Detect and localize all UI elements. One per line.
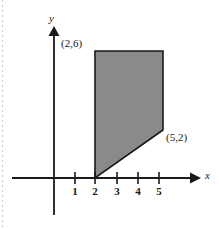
x-tick-label-4: 4 [132, 186, 144, 197]
vertex-label-2-6: (2,6) [61, 38, 82, 49]
y-axis-label: y [49, 13, 54, 24]
plot-canvas [0, 0, 219, 229]
x-tick-label-2: 2 [89, 186, 101, 197]
y-axis-arrow-icon [49, 26, 60, 36]
coordinate-plane-figure: 1 2 3 4 5 (2,6) (5,2) x y [0, 0, 219, 229]
x-tick-label-5: 5 [153, 186, 165, 197]
x-axis-arrow-icon [190, 173, 201, 184]
vertex-label-5-2: (5,2) [166, 132, 187, 143]
x-tick-label-3: 3 [111, 186, 123, 197]
x-axis-label: x [205, 170, 210, 181]
x-tick-label-1: 1 [69, 186, 81, 197]
shaded-region [95, 51, 163, 178]
